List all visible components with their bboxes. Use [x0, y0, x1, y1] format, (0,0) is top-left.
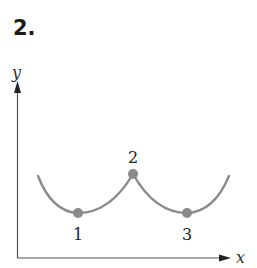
y-axis-label: y: [11, 63, 22, 82]
x-axis-arrow-icon: [219, 255, 231, 262]
y-axis-arrow-icon: [14, 81, 21, 93]
point-2: [128, 169, 138, 179]
point-1: [73, 208, 83, 218]
point-3-label: 3: [182, 225, 192, 244]
curve: [38, 174, 229, 213]
point-1-label: 1: [73, 225, 83, 244]
x-axis-label: x: [236, 248, 245, 267]
point-3: [182, 208, 192, 218]
point-2-label: 2: [128, 148, 138, 167]
diagram: y x 1 2 3: [0, 0, 257, 268]
